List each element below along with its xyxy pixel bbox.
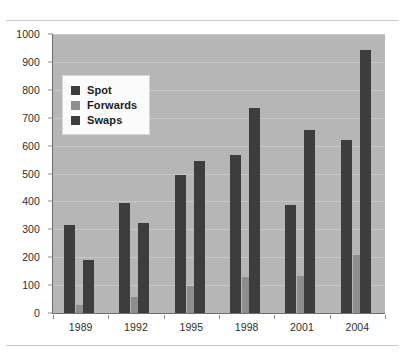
legend-swatch-icon xyxy=(71,86,80,95)
bar-swaps xyxy=(304,130,315,313)
y-axis-tick-label: 800 xyxy=(22,84,40,96)
figure: 01002003004005006007008009001000 SpotFor… xyxy=(0,0,404,361)
x-axis-tick-label: 2004 xyxy=(345,321,369,333)
y-axis-tick-label: 1000 xyxy=(16,28,40,40)
x-axis-tick-label: 2001 xyxy=(290,321,314,333)
bar-group xyxy=(274,34,329,313)
top-divider xyxy=(6,20,398,21)
bar-spot xyxy=(230,155,241,313)
bar-swaps xyxy=(249,108,260,313)
bar-group xyxy=(330,34,385,313)
legend-swatch-icon xyxy=(71,116,80,125)
bar-swaps xyxy=(138,223,149,313)
x-axis-tick-mark xyxy=(53,315,54,319)
y-axis-tick-label: 700 xyxy=(22,112,40,124)
x-axis-tick-mark xyxy=(385,315,386,319)
bar-swaps xyxy=(360,50,371,313)
y-axis-tick-label: 400 xyxy=(22,195,40,207)
legend-item: Swaps xyxy=(71,113,137,127)
x-axis-tick-mark xyxy=(219,315,220,319)
bar-spot xyxy=(119,203,130,313)
legend-item-label: Swaps xyxy=(87,114,122,126)
bar-group xyxy=(164,34,219,313)
y-axis-tick-label: 900 xyxy=(22,56,40,68)
x-axis-tick-mark xyxy=(330,315,331,319)
x-axis-tick-mark xyxy=(108,315,109,319)
y-axis-tick-label: 200 xyxy=(22,251,40,263)
legend-item: Forwards xyxy=(71,98,137,112)
bar-swaps xyxy=(83,260,94,313)
bar-spot xyxy=(285,205,296,313)
y-axis: 01002003004005006007008009001000 xyxy=(0,34,48,313)
x-axis-line xyxy=(53,313,385,314)
x-axis-tick-label: 1989 xyxy=(69,321,93,333)
y-axis-tick-label: 0 xyxy=(34,307,40,319)
y-axis-tick-label: 100 xyxy=(22,279,40,291)
y-axis-tick-label: 500 xyxy=(22,168,40,180)
x-axis: 198919921995199820012004 xyxy=(53,315,385,337)
legend: SpotForwardsSwaps xyxy=(62,75,150,135)
y-axis-tick-label: 600 xyxy=(22,140,40,152)
legend-item-label: Forwards xyxy=(87,99,137,111)
legend-item-label: Spot xyxy=(87,84,112,96)
bar-spot xyxy=(175,175,186,313)
legend-swatch-icon xyxy=(71,101,80,110)
bar-spot xyxy=(64,225,75,313)
x-axis-tick-mark xyxy=(164,315,165,319)
bottom-divider xyxy=(6,345,398,346)
legend-item: Spot xyxy=(71,83,137,97)
x-axis-tick-mark xyxy=(274,315,275,319)
plot-area: SpotForwardsSwaps xyxy=(53,34,385,313)
y-axis-tick-label: 300 xyxy=(22,223,40,235)
bar-spot xyxy=(341,140,352,313)
x-axis-tick-label: 1995 xyxy=(179,321,203,333)
x-axis-tick-label: 1998 xyxy=(235,321,259,333)
bar-chart: 01002003004005006007008009001000 SpotFor… xyxy=(0,26,404,338)
x-axis-tick-label: 1992 xyxy=(124,321,148,333)
bar-group xyxy=(219,34,274,313)
bar-swaps xyxy=(194,161,205,313)
